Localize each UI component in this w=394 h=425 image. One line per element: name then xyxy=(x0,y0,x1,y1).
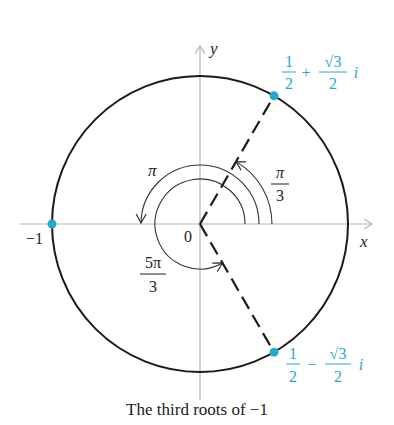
imaginary-unit: i xyxy=(359,356,363,373)
y-axis-label: y xyxy=(208,39,218,58)
neg-one-label: −1 xyxy=(26,230,43,247)
radius-lower-dashed xyxy=(200,224,274,352)
angle-five-pi-over-3-label: 5π 3 xyxy=(140,254,166,295)
imaginary-unit: i xyxy=(354,64,358,81)
re-denominator: 2 xyxy=(285,75,293,92)
angle-pi-over-3-denominator: 3 xyxy=(276,187,284,204)
radius-upper-dashed xyxy=(200,96,274,224)
im-denominator: 2 xyxy=(329,75,337,92)
root-point-upper xyxy=(270,91,279,100)
im-numerator: √3 xyxy=(325,53,342,70)
unit-circle-diagram: y x 0 −1 π π 3 5π 3 1 2 + √3 2 i 1 2 − √… xyxy=(0,0,394,425)
origin-label: 0 xyxy=(184,228,192,245)
root-point-left xyxy=(48,220,57,229)
angle-five-pi-over-3-numerator: 5π xyxy=(145,254,161,271)
figure-caption: The third roots of −1 xyxy=(126,400,268,419)
sign: − xyxy=(307,356,316,373)
angle-five-pi-over-3-denominator: 3 xyxy=(149,278,157,295)
angle-pi-over-3-numerator: π xyxy=(276,164,285,181)
angle-pi-label: π xyxy=(148,161,157,180)
re-numerator: 1 xyxy=(289,345,297,362)
im-denominator: 2 xyxy=(334,368,342,385)
root-lower-label: 1 2 − √3 2 i xyxy=(286,345,363,385)
x-axis-label: x xyxy=(359,232,368,251)
arc-pi-over-3 xyxy=(236,162,272,224)
re-denominator: 2 xyxy=(289,368,297,385)
root-upper-label: 1 2 + √3 2 i xyxy=(282,53,358,92)
sign: + xyxy=(301,64,310,81)
root-point-lower xyxy=(270,348,279,357)
angle-pi-over-3-label: π 3 xyxy=(271,164,289,204)
re-numerator: 1 xyxy=(285,53,293,70)
im-numerator: √3 xyxy=(330,345,347,362)
